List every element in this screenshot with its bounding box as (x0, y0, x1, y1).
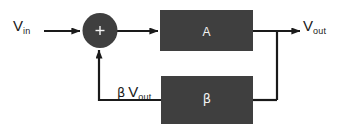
output-label: Vout (303, 18, 326, 36)
feedback-signal-beta: β (117, 85, 125, 100)
output-label-base: V (303, 17, 313, 34)
feedback-block-label: β (203, 91, 211, 106)
feedback-signal-label: βVout (117, 84, 151, 102)
output-label-subscript: out (313, 26, 326, 36)
feedback-signal-base: V (128, 83, 138, 100)
input-label-subscript: in (23, 26, 30, 36)
gain-block-label: A (202, 25, 210, 39)
block-diagram: A β Vin Vout βVout (0, 0, 345, 128)
feedback-signal-subscript: out (138, 92, 151, 102)
input-label-base: V (13, 17, 23, 34)
diagram-canvas: A β (0, 0, 345, 128)
input-label: Vin (13, 18, 30, 36)
